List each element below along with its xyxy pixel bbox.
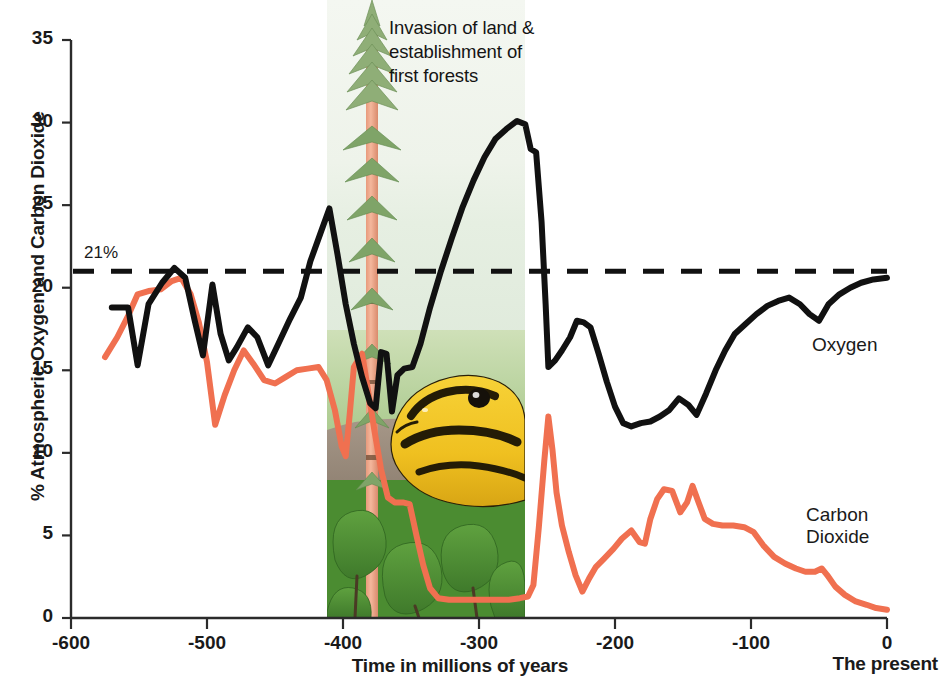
x-tick-label: -500 [162,632,252,654]
series-label-carbon-dioxide: Carbon Dioxide [806,504,898,549]
y-tick-marks [62,40,71,618]
threshold-label: 21% [84,243,118,263]
y-tick-label: 0 [13,605,53,627]
plot-canvas [0,0,942,687]
x-tick-label: -400 [298,632,388,654]
y-axis-title: % Atmospheric Oxygen and Carbon Dioxide [27,121,49,501]
y-tick-label: 35 [13,27,53,49]
series-label-oxygen: Oxygen [812,334,877,356]
y-tick-label: 5 [13,522,53,544]
x-tick-label: -600 [26,632,116,654]
x-axis-present-note: The present [833,653,939,675]
x-tick-marks [71,618,887,629]
x-axis-title: Time in millions of years [250,655,670,677]
x-tick-label: -100 [706,632,796,654]
chart-figure: 05101520253035 -600-500-400-300-200-1000… [0,0,942,687]
annotation-invasion-of-land: Invasion of land & establishment of firs… [389,16,535,88]
x-tick-label: -300 [434,632,524,654]
x-tick-label: -200 [570,632,660,654]
x-tick-label: 0 [842,632,932,654]
